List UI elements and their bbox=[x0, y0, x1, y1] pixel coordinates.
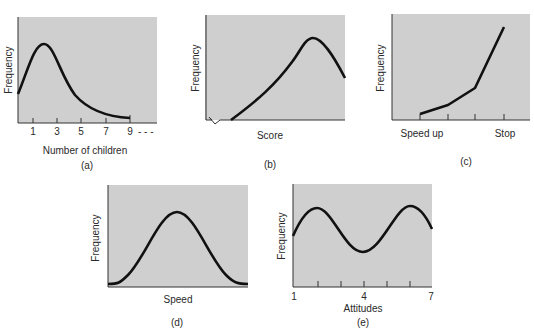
y-axis-label-e: Frequency bbox=[276, 212, 287, 259]
x-tick-label: 1 bbox=[291, 291, 297, 302]
chart-a: 1 3 5 7 9 - - - Number of children Frequ… bbox=[3, 17, 157, 171]
plot-area-c bbox=[392, 14, 530, 120]
x-tick-label: 3 bbox=[54, 126, 60, 137]
chart-b: Score Frequency (b) bbox=[190, 15, 345, 170]
x-axis-label-left-c: Speed up bbox=[401, 128, 444, 139]
chart-d: Speed Frequency (d) bbox=[90, 185, 248, 328]
x-continuation: - - - bbox=[138, 126, 154, 137]
y-axis-label-d: Frequency bbox=[90, 214, 101, 261]
plot-area-e bbox=[293, 184, 432, 287]
frequency-distributions-figure: 1 3 5 7 9 - - - Number of children Frequ… bbox=[0, 0, 534, 334]
chart-c: Speed up Stop Frequency (c) bbox=[375, 14, 530, 167]
caption-e: (e) bbox=[357, 317, 369, 328]
x-axis-label-right-c: Stop bbox=[495, 128, 516, 139]
chart-e: 1 4 7 Attitudes Frequency (e) bbox=[276, 184, 434, 328]
caption-d: (d) bbox=[171, 317, 183, 328]
plot-area-b bbox=[205, 15, 345, 120]
x-axis-label-b: Score bbox=[257, 130, 284, 141]
x-tick-label: 4 bbox=[361, 291, 367, 302]
y-axis-label-c: Frequency bbox=[375, 44, 386, 91]
x-axis-label-d: Speed bbox=[164, 294, 193, 305]
x-tick-label: 7 bbox=[103, 126, 109, 137]
caption-b: (b) bbox=[264, 159, 276, 170]
x-axis-label-e: Attitudes bbox=[344, 303, 383, 314]
plot-area-d bbox=[108, 185, 248, 287]
x-tick-label: 5 bbox=[78, 126, 84, 137]
x-tick-label: 1 bbox=[30, 126, 36, 137]
x-tick-label: 9 bbox=[127, 126, 133, 137]
x-axis-label-a: Number of children bbox=[43, 145, 127, 156]
y-axis-label-b: Frequency bbox=[190, 44, 201, 91]
caption-a: (a) bbox=[81, 160, 93, 171]
x-tick-label: 7 bbox=[428, 291, 434, 302]
y-axis-label-a: Frequency bbox=[3, 46, 14, 93]
caption-c: (c) bbox=[460, 156, 472, 167]
